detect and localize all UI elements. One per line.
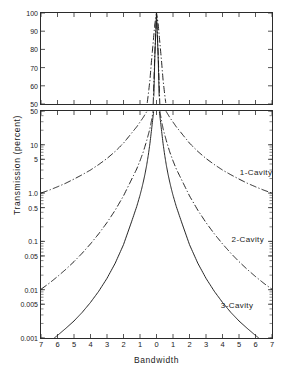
y-axis-tick-label: 0.05 [24, 252, 38, 259]
x-axis-tick-label: 1 [171, 341, 175, 349]
upper-linear-panel: 1009080706050 [40, 12, 273, 105]
x-axis-tick-label: 2 [187, 341, 191, 349]
curve-label-2-cavity: 2-Cavity [232, 235, 265, 244]
x-axis-tick-label: 7 [39, 341, 43, 349]
y-axis-tick-label: 1.0 [28, 190, 38, 197]
curve-1-cavity [41, 111, 272, 193]
x-axis-tick-label: 4 [220, 341, 224, 349]
y-axis-tick-label: 0.005 [20, 301, 38, 308]
y-axis-tick-label: 0.01 [24, 286, 38, 293]
x-axis-tick-label: 5 [237, 341, 241, 349]
x-axis-tick-label: 0 [154, 341, 158, 349]
x-axis-tick-label: 3 [204, 341, 208, 349]
y-axis-tick-label: 80 [30, 46, 38, 53]
x-axis-tick-label: 2 [121, 341, 125, 349]
y-axis-tick-label: 90 [30, 28, 38, 35]
y-axis-tick-label: 70 [30, 64, 38, 71]
x-axis-tick-label: 5 [72, 341, 76, 349]
y-axis-tick-label: 10 [30, 141, 38, 148]
lower-log-panel: 501051.00.50.10.050.010.0050.00176543210… [40, 110, 273, 339]
y-axis-tick-label: 0.001 [20, 335, 38, 342]
transmission-bandwidth-chart: Transmission (percent) 1009080706050 501… [0, 0, 289, 373]
x-axis-tick-label: 3 [105, 341, 109, 349]
curve-2-cavity [41, 111, 272, 289]
curve-label-3-cavity: 3-Cavity [221, 301, 254, 310]
y-axis-tick-label: 5 [34, 156, 38, 163]
y-axis-tick-label: 100 [26, 10, 38, 17]
x-axis-title: Bandwidth [40, 355, 273, 365]
y-axis-title: Transmission (percent) [12, 70, 22, 260]
x-axis-tick-label: 6 [253, 341, 257, 349]
y-axis-tick-label: 60 [30, 82, 38, 89]
x-axis-tick-label: 6 [55, 341, 59, 349]
curve-1-cavity [147, 13, 166, 103]
y-axis-title-container: Transmission (percent) [0, 0, 20, 340]
curve-label-1-cavity: 1-Cavity [240, 168, 273, 177]
y-axis-tick-label: 0.5 [28, 204, 38, 211]
y-axis-tick-label: 50 [30, 108, 38, 115]
y-axis-tick-label: 50 [30, 101, 38, 108]
x-axis-tick-label: 1 [138, 341, 142, 349]
x-axis-tick-label: 4 [88, 341, 92, 349]
x-axis-tick-label: 7 [270, 341, 274, 349]
y-axis-tick-label: 0.1 [28, 238, 38, 245]
upper-panel-plot-area [41, 13, 272, 104]
